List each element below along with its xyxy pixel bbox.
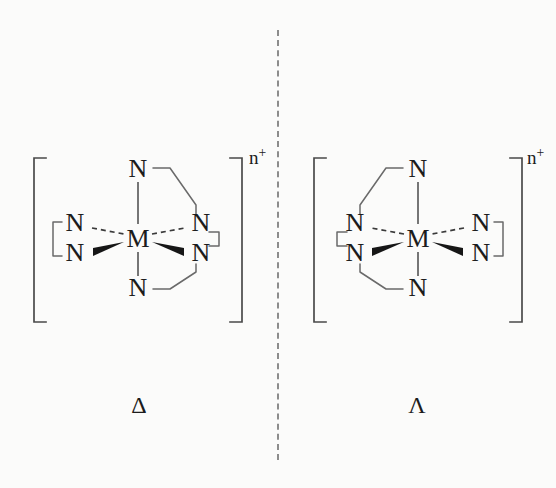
bracket-left-open (510, 158, 522, 322)
charge-value: n (249, 147, 259, 168)
bridge-near-upper-to-near-lower (53, 222, 62, 256)
bond-hashed-far-upper (152, 228, 185, 234)
atom-metal-center: M (125, 226, 151, 252)
atom-n-near-upper: N (62, 210, 88, 236)
bridge-top-to-far-upper (360, 168, 403, 214)
bond-hashed-near-upper (92, 228, 124, 234)
charge-sign: + (537, 145, 545, 160)
charge-label: n+ (527, 146, 544, 167)
bond-wedge-near-lower (93, 242, 124, 256)
complex-lambda: N N N N N N M n+ Λ (278, 0, 556, 488)
bond-wedge-near-lower (432, 242, 463, 256)
bridge-bottom-to-far-lower (153, 264, 196, 289)
bridge-top-to-far-upper (153, 168, 196, 214)
bond-wedge-far-lower (152, 242, 184, 256)
atom-n-left-lower: N (468, 240, 494, 266)
charge-label: n+ (249, 146, 266, 167)
atom-n-bottom: N (405, 275, 431, 301)
bridge-near-upper-to-near-lower (494, 222, 503, 256)
bond-wedge-far-lower (372, 242, 404, 256)
atom-n-far-lower: N (188, 240, 214, 266)
atom-metal-center: M (405, 226, 431, 252)
atom-n-right-upper: N (342, 210, 368, 236)
bracket-right-close (314, 158, 326, 322)
atom-n-right-lower: N (342, 240, 368, 266)
atom-n-far-upper: N (188, 210, 214, 236)
bond-hashed-far-upper (371, 228, 404, 234)
atom-n-near-lower: N (62, 240, 88, 266)
atom-n-bottom: N (125, 275, 151, 301)
bracket-right-close (230, 158, 242, 322)
charge-sign: + (259, 145, 267, 160)
atom-n-top: N (125, 156, 151, 182)
complex-delta: N N N N N N M n+ Δ (0, 0, 278, 488)
figure-canvas: N N N N N N M n+ Δ (0, 0, 556, 488)
bracket-left-open (34, 158, 46, 322)
isomer-label-delta: Δ (119, 393, 159, 417)
charge-value: n (527, 147, 537, 168)
bond-hashed-near-upper (432, 228, 464, 234)
atom-n-left-upper: N (468, 210, 494, 236)
bridge-bottom-to-far-lower (360, 264, 403, 289)
isomer-label-lambda: Λ (397, 393, 437, 417)
atom-n-top: N (405, 156, 431, 182)
